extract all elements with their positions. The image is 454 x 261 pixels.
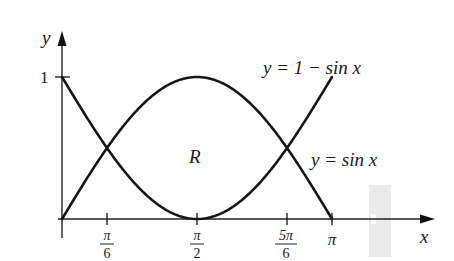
x-tick-label-5pi-6: 5π 6 bbox=[275, 228, 297, 261]
svg-text:6: 6 bbox=[104, 246, 111, 261]
svg-text:π: π bbox=[103, 228, 111, 243]
label-one-minus-sin-x: y = 1 − sin x bbox=[261, 57, 361, 78]
x-tick-label-pi-6: π 6 bbox=[100, 228, 114, 261]
x-axis-label: x bbox=[419, 226, 429, 247]
y-axis-label: y bbox=[40, 27, 51, 48]
x-tick-label-pi: π bbox=[328, 230, 337, 249]
svg-text:2: 2 bbox=[194, 246, 201, 261]
label-sin-x: y = sin x bbox=[309, 149, 378, 170]
x-axis-arrow-icon bbox=[420, 215, 435, 224]
region-label-r: R bbox=[188, 146, 201, 167]
sine-region-chart: y x 1 π 6 π 2 5π 6 π y = 1 − sin x y = s… bbox=[0, 0, 454, 261]
svg-text:π: π bbox=[193, 228, 201, 243]
x-tick-label-pi-2: π 2 bbox=[190, 228, 204, 261]
y-tick-label-1: 1 bbox=[40, 68, 49, 87]
y-axis-arrow-icon bbox=[58, 31, 67, 46]
svg-text:5π: 5π bbox=[279, 228, 294, 243]
svg-text:6: 6 bbox=[283, 246, 290, 261]
